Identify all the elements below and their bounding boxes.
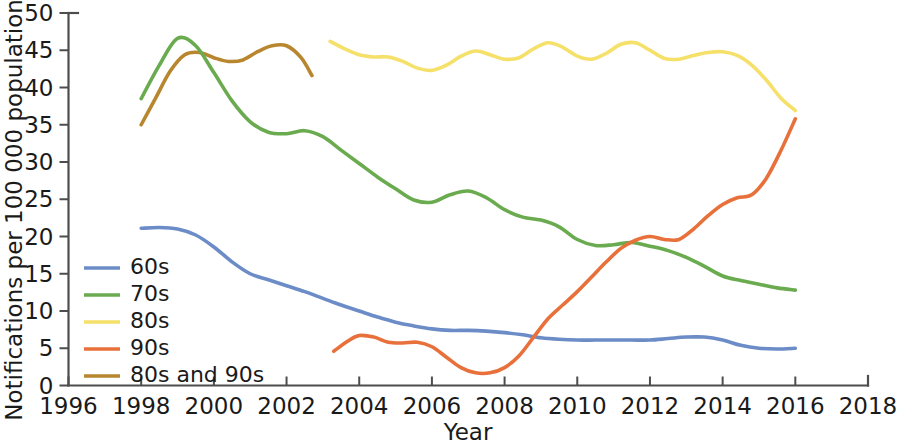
legend-label: 90s	[130, 335, 169, 360]
x-tick-label: 2000	[185, 393, 244, 419]
y-tick-label: 45	[24, 37, 53, 63]
y-tick-label: 25	[24, 186, 53, 212]
x-tick-label: 2012	[621, 393, 680, 419]
y-tick-label: 5	[39, 335, 54, 361]
line-chart: 05101520253035404550 1996199820002002200…	[0, 0, 901, 446]
y-tick-label: 50	[24, 0, 53, 26]
y-tick-label: 20	[24, 224, 53, 250]
x-tick-label: 1996	[39, 393, 98, 419]
legend-label: 70s	[130, 281, 169, 306]
x-tick-label: 2004	[330, 393, 389, 419]
x-tick-label: 2008	[475, 393, 534, 419]
x-tick-label: 2006	[403, 393, 462, 419]
series-line-60s	[141, 228, 795, 349]
x-tick-label: 2014	[693, 393, 752, 419]
x-axis-title: Year	[443, 419, 493, 445]
x-tick-label: 2002	[257, 393, 316, 419]
legend-label: 60s	[130, 254, 169, 279]
x-tick-label: 1998	[112, 393, 171, 419]
x-tick-label: 2018	[839, 393, 898, 419]
series-line-90s	[334, 119, 796, 374]
y-axis-ticks: 05101520253035404550	[24, 0, 68, 399]
y-tick-label: 15	[24, 261, 53, 287]
series-lines	[141, 37, 795, 373]
chart-legend: 60s70s80s90s80s and 90s	[84, 254, 264, 387]
chart-figure: 05101520253035404550 1996199820002002200…	[0, 0, 901, 446]
y-axis-title: Notifications per 100 000 population n	[1, 0, 27, 421]
y-tick-label: 10	[24, 298, 53, 324]
series-line-70s	[141, 37, 795, 290]
y-tick-label: 35	[24, 112, 53, 138]
series-line-80s-and-90s	[141, 45, 312, 125]
x-tick-label: 2010	[548, 393, 607, 419]
series-line-80s	[330, 41, 795, 110]
x-tick-label: 2016	[766, 393, 825, 419]
legend-label: 80s	[130, 308, 169, 333]
y-tick-label: 40	[24, 75, 53, 101]
y-tick-label: 30	[24, 149, 53, 175]
legend-label: 80s and 90s	[130, 362, 264, 387]
